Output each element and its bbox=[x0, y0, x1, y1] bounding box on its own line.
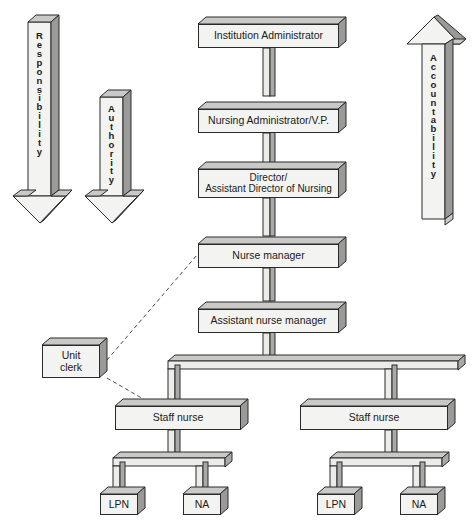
arrow-authority: Authority bbox=[82, 89, 144, 226]
node-label: Nurse manager bbox=[229, 250, 307, 261]
arrow-letter: y bbox=[37, 148, 42, 157]
node-nurse-manager[interactable]: Nurse manager bbox=[198, 237, 346, 268]
arrow-letter: y bbox=[109, 176, 114, 185]
node-nursing-administrator[interactable]: Nursing Administrator/V.P. bbox=[198, 102, 346, 133]
dashed-link-unit-clerk-nurse-manager bbox=[107, 255, 197, 360]
node-label: Staff nurse bbox=[150, 412, 207, 423]
node-label-line2: clerk bbox=[57, 362, 85, 373]
arrow-accountability: Accountability bbox=[404, 14, 466, 226]
node-label-line1: Director/ bbox=[247, 173, 291, 184]
node-lpn-right[interactable]: LPN bbox=[317, 487, 362, 515]
node-label: NA bbox=[192, 499, 213, 510]
node-na-left[interactable]: NA bbox=[183, 487, 228, 515]
node-lpn-left[interactable]: LPN bbox=[100, 487, 145, 515]
node-staff-nurse-left[interactable]: Staff nurse bbox=[115, 399, 248, 430]
node-label: NA bbox=[409, 499, 430, 510]
node-assistant-nurse-manager[interactable]: Assistant nurse manager bbox=[198, 302, 346, 333]
node-label-line1: Unit bbox=[59, 350, 84, 361]
node-label: Assistant nurse manager bbox=[207, 315, 329, 326]
node-label: LPN bbox=[323, 499, 349, 510]
arrow-responsibility: Responsibility bbox=[10, 14, 72, 226]
arrow-letter: y bbox=[431, 170, 436, 179]
node-label: LPN bbox=[106, 499, 132, 510]
node-unit-clerk[interactable]: Unit clerk bbox=[42, 338, 107, 378]
arrow-accountability-label: Accountability bbox=[422, 54, 445, 179]
node-na-right[interactable]: NA bbox=[400, 487, 445, 515]
org-chart-canvas: .cf{fill:#ececea;stroke:#2a2a2a;stroke-w… bbox=[0, 0, 475, 532]
arrow-authority-label: Authority bbox=[100, 105, 123, 185]
arrow-responsibility-label: Responsibility bbox=[28, 32, 51, 157]
node-director[interactable]: Director/ Assistant Director of Nursing bbox=[198, 162, 346, 198]
node-label-line2: Assistant Director of Nursing bbox=[202, 184, 335, 195]
node-label: Staff nurse bbox=[346, 412, 403, 423]
node-label: Institution Administrator bbox=[211, 30, 326, 41]
node-staff-nurse-right[interactable]: Staff nurse bbox=[300, 399, 455, 430]
node-institution-administrator[interactable]: Institution Administrator bbox=[198, 17, 346, 48]
node-label: Nursing Administrator/V.P. bbox=[205, 115, 332, 126]
